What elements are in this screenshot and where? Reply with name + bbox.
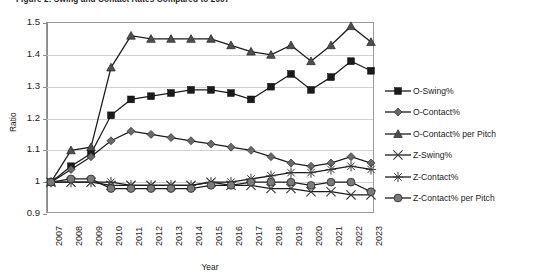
- x-tick-label: 2009: [94, 226, 104, 246]
- legend-marker-diamond-icon: [384, 105, 412, 119]
- series-line-o-contact-per-pitch: [51, 26, 371, 182]
- marker-star: [346, 161, 356, 171]
- marker-circle: [367, 188, 375, 196]
- marker-circle: [287, 178, 295, 186]
- marker-diamond: [287, 159, 295, 167]
- plot-area: [46, 22, 374, 213]
- y-axis-title: Ratio: [8, 112, 18, 132]
- x-tick-label: 2016: [234, 226, 244, 246]
- marker-square: [148, 93, 155, 100]
- marker-square: [348, 58, 355, 65]
- x-tick-label: 2020: [314, 226, 324, 246]
- legend-item-o-swing[interactable]: O-Swing%: [384, 80, 534, 102]
- legend-item-z-swing[interactable]: Z-Swing%: [384, 145, 534, 167]
- marker-diamond: [247, 146, 255, 154]
- x-tick-label: 2014: [194, 226, 204, 246]
- y-tick-label: 1.1: [4, 143, 40, 154]
- x-tick-label: 2017: [254, 226, 264, 246]
- marker-star: [393, 172, 403, 182]
- marker-circle: [87, 175, 95, 183]
- legend-item-z-contact[interactable]: Z-Contact%: [384, 166, 534, 188]
- x-tick-label: 2008: [74, 226, 84, 246]
- marker-diamond: [394, 108, 402, 116]
- x-tick-label: 2023: [374, 226, 384, 246]
- marker-diamond: [227, 143, 235, 151]
- marker-diamond: [127, 127, 135, 135]
- marker-star: [366, 164, 376, 174]
- legend-label: Z-Contact% per Pitch: [413, 193, 495, 203]
- legend-marker-square-icon: [384, 84, 412, 98]
- marker-star: [286, 167, 296, 177]
- marker-diamond: [187, 137, 195, 145]
- legend-label: O-Contact%: [413, 107, 460, 117]
- marker-triangle: [107, 63, 116, 71]
- marker-square: [128, 96, 135, 103]
- legend-item-z-contact-per-pitch[interactable]: Z-Contact% per Pitch: [384, 188, 534, 210]
- x-tick-label: 2013: [174, 226, 184, 246]
- y-tick-label: 1: [4, 175, 40, 186]
- legend-label: Z-Contact%: [413, 172, 458, 182]
- y-tick-label: 1.4: [4, 48, 40, 59]
- legend-label: O-Swing%: [413, 86, 454, 96]
- legend-item-o-contact-per-pitch[interactable]: O-Contact% per Pitch: [384, 123, 534, 145]
- marker-diamond: [267, 153, 275, 161]
- y-tick-label: 1.3: [4, 80, 40, 91]
- chart-screenshot: Figure 2: Swing and Contact Rates Compar…: [0, 0, 534, 277]
- marker-circle: [67, 175, 75, 183]
- marker-square: [288, 71, 295, 78]
- x-tick-label: 2015: [214, 226, 224, 246]
- marker-circle: [127, 185, 135, 193]
- marker-circle: [307, 181, 315, 189]
- marker-square: [395, 87, 402, 94]
- legend-marker-star-icon: [384, 170, 412, 184]
- x-tick-label: 2018: [274, 226, 284, 246]
- y-tick-label: 1.5: [4, 16, 40, 27]
- marker-square: [308, 86, 315, 93]
- chart-legend: O-Swing%O-Contact%O-Contact% per PitchZ-…: [384, 80, 534, 209]
- figure-title: Figure 2: Swing and Contact Rates Compar…: [16, 0, 376, 4]
- legend-marker-circle-icon: [384, 191, 412, 205]
- marker-circle: [394, 194, 402, 202]
- marker-triangle: [127, 31, 136, 39]
- marker-square: [108, 112, 115, 119]
- legend-label: Z-Swing%: [413, 150, 452, 160]
- x-tick-label: 2010: [114, 226, 124, 246]
- marker-circle: [327, 178, 335, 186]
- marker-diamond: [207, 140, 215, 148]
- x-tick-label: 2022: [354, 226, 364, 246]
- marker-circle: [347, 178, 355, 186]
- x-tick-label: 2021: [334, 226, 344, 246]
- y-tick: [43, 214, 47, 215]
- marker-circle: [267, 178, 275, 186]
- marker-square: [208, 86, 215, 93]
- marker-circle: [207, 181, 215, 189]
- marker-square: [188, 86, 195, 93]
- marker-circle: [247, 178, 255, 186]
- marker-circle: [227, 181, 235, 189]
- legend-marker-triangle-icon: [384, 127, 412, 141]
- marker-circle: [187, 185, 195, 193]
- marker-star: [326, 164, 336, 174]
- x-tick-label: 2012: [154, 226, 164, 246]
- marker-triangle: [347, 22, 356, 30]
- data-series-layer: [47, 23, 375, 214]
- y-tick-label: 0.9: [4, 207, 40, 218]
- marker-triangle: [287, 41, 296, 49]
- marker-circle: [47, 178, 55, 186]
- marker-square: [248, 96, 255, 103]
- x-axis-title: Year: [46, 262, 374, 272]
- marker-circle: [147, 185, 155, 193]
- marker-diamond: [167, 134, 175, 142]
- x-tick-label: 2019: [294, 226, 304, 246]
- legend-item-o-contact[interactable]: O-Contact%: [384, 102, 534, 124]
- marker-star: [306, 167, 316, 177]
- marker-square: [268, 83, 275, 90]
- marker-square: [228, 90, 235, 97]
- marker-square: [368, 67, 375, 74]
- marker-square: [168, 90, 175, 97]
- legend-marker-x-icon: [384, 148, 412, 162]
- marker-diamond: [347, 153, 355, 161]
- marker-circle: [107, 185, 115, 193]
- x-tick-label: 2011: [134, 227, 144, 246]
- x-tick-label: 2007: [54, 226, 64, 246]
